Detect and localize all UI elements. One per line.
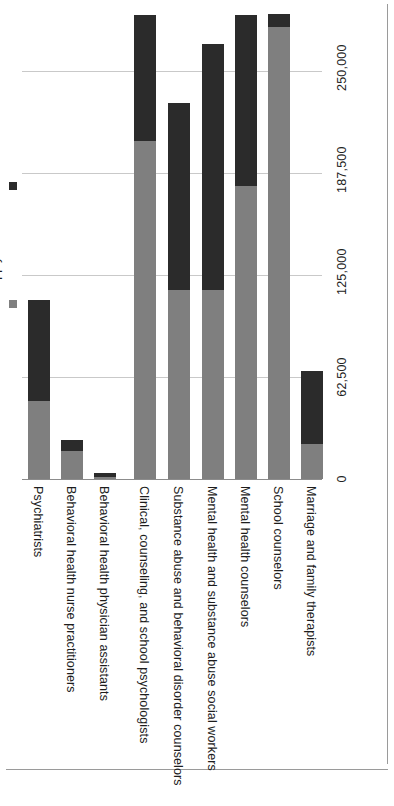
value-axis-labels: 062,500125,000187,500250,000 bbox=[322, 12, 362, 480]
value-axis-tick-label: 0 bbox=[335, 459, 349, 499]
legend-item[interactable]: Supply bbox=[4, 178, 24, 308]
legend-label: Supply bbox=[0, 165, 4, 295]
bar-segment-supply[interactable] bbox=[268, 27, 290, 479]
legend-label: Demand bbox=[0, 47, 4, 177]
category-axis-tick-label: Behavioral health physician assistants bbox=[93, 486, 111, 736]
plot-area bbox=[22, 12, 322, 480]
category-axis-tick-label: Mental health counselors bbox=[234, 486, 252, 736]
chart-root: DemandSupply 062,500125,000187,500250,00… bbox=[0, 0, 394, 806]
bar-segment-supply[interactable] bbox=[61, 451, 83, 479]
category-axis-tick-label: Substance abuse and behavioral disorder … bbox=[167, 486, 185, 736]
bar-segment-supply[interactable] bbox=[134, 141, 156, 479]
category-axis-tick-label: Psychiatrists bbox=[27, 486, 45, 736]
category-axis-tick-label: School counselors bbox=[267, 486, 285, 736]
legend-item[interactable]: Demand bbox=[4, 60, 24, 190]
bar-segment-supply[interactable] bbox=[301, 444, 323, 479]
bar-group[interactable] bbox=[235, 12, 257, 479]
value-axis-tick-label: 125,000 bbox=[335, 255, 349, 295]
bar-segment-supply[interactable] bbox=[202, 290, 224, 479]
category-axis-tick-label: Marriage and family therapists bbox=[300, 486, 318, 736]
page-rule-right bbox=[387, 4, 388, 764]
bar-group[interactable] bbox=[168, 12, 190, 479]
value-axis-tick-label: 62,500 bbox=[335, 357, 349, 397]
value-axis-tick-label: 250,000 bbox=[335, 51, 349, 91]
category-axis-tick-label: Mental health and substance abuse social… bbox=[201, 486, 219, 736]
category-axis-tick-label: Behavioral health nurse practitioners bbox=[60, 486, 78, 736]
category-axis-labels: PsychiatristsBehavioral health nurse pra… bbox=[22, 486, 322, 736]
bar-group[interactable] bbox=[268, 12, 290, 479]
bar-group[interactable] bbox=[61, 12, 83, 479]
baseline-axis bbox=[22, 479, 322, 480]
bar-group[interactable] bbox=[202, 12, 224, 479]
value-axis-tick-label: 187,500 bbox=[335, 153, 349, 193]
bar-group[interactable] bbox=[301, 12, 323, 479]
bar-group[interactable] bbox=[28, 12, 50, 479]
page-rule-bottom bbox=[6, 769, 388, 770]
legend-swatch-icon bbox=[9, 300, 17, 308]
bar-segment-supply[interactable] bbox=[28, 401, 50, 479]
category-axis-tick-label: Clinical, counseling, and school psychol… bbox=[133, 486, 151, 736]
bar-segment-supply[interactable] bbox=[235, 186, 257, 479]
bar-segment-supply[interactable] bbox=[168, 290, 190, 479]
bar-group[interactable] bbox=[134, 12, 156, 479]
bar-group[interactable] bbox=[94, 12, 116, 479]
